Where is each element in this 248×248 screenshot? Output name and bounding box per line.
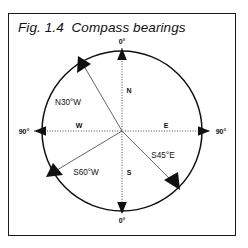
angle-label-right: 90°: [216, 128, 227, 135]
angle-label-top: 0°: [119, 38, 126, 45]
south-arrowhead-icon: [117, 202, 127, 214]
north-arrowhead-icon: [117, 48, 127, 60]
east-arrowhead-icon: [198, 126, 210, 136]
cardinal-label-north: N: [126, 87, 131, 94]
compass-diagram: 0° 0° 90° 90° N S W E N30°W S60°W S45°E: [0, 0, 248, 248]
bearing-label-n30w: N30°W: [55, 98, 81, 107]
cardinal-label-south: S: [127, 169, 132, 176]
bearing-arrowhead-s60w-icon: [46, 163, 63, 177]
angle-label-left: 90°: [19, 128, 30, 135]
angle-label-bottom: 0°: [119, 217, 126, 224]
figure-container: Fig. 1.4 Compass bearings 0° 0° 90° 90°: [0, 0, 248, 248]
bearing-ray-s60w: [57, 131, 122, 170]
bearing-ray-n30w: [84, 66, 122, 131]
bearing-arrowhead-s45e-icon: [164, 172, 180, 190]
cardinal-label-west: W: [76, 122, 83, 129]
west-arrowhead-icon: [34, 126, 46, 136]
bearing-label-s45e: S45°E: [151, 151, 175, 160]
cardinal-label-east: E: [164, 122, 169, 129]
bearing-label-s60w: S60°W: [73, 168, 99, 177]
